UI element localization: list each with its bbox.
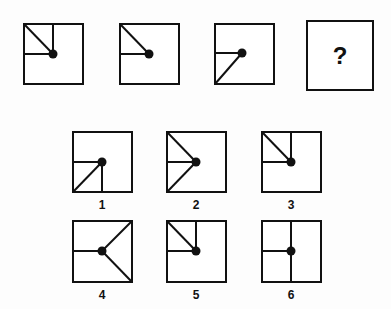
option-label-4: 4 — [87, 288, 117, 302]
option-2[interactable] — [166, 131, 227, 193]
sequence-panel-3 — [214, 23, 275, 85]
question-mark: ? — [308, 42, 372, 70]
figure-lines-icon — [119, 23, 180, 85]
figure-lines-icon — [166, 220, 227, 283]
figure-lines-icon — [166, 131, 227, 193]
option-label-3: 3 — [276, 198, 306, 212]
option-3[interactable] — [261, 131, 322, 193]
question-panel: ? — [306, 20, 374, 91]
option-label-5: 5 — [181, 288, 211, 302]
figure-lines-icon — [214, 23, 275, 85]
sequence-panel-1 — [23, 23, 84, 85]
sequence-panel-2 — [119, 23, 180, 85]
figure-lines-icon — [72, 131, 133, 193]
option-label-1: 1 — [87, 198, 117, 212]
option-label-6: 6 — [276, 288, 306, 302]
option-label-2: 2 — [181, 198, 211, 212]
figure-lines-icon — [72, 220, 133, 283]
figure-lines-icon — [261, 220, 322, 283]
figure-lines-icon — [261, 131, 322, 193]
option-5[interactable] — [166, 220, 227, 283]
option-6[interactable] — [261, 220, 322, 283]
option-4[interactable] — [72, 220, 133, 283]
figure-lines-icon — [23, 23, 84, 85]
option-1[interactable] — [72, 131, 133, 193]
